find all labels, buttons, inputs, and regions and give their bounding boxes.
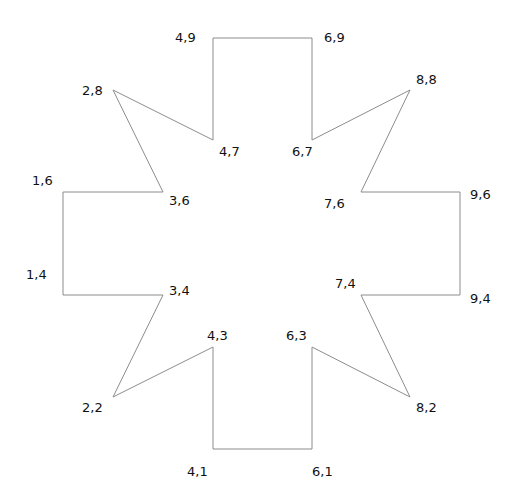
star-polygon-outline	[63, 38, 460, 449]
vertex-label: 4,1	[187, 464, 208, 479]
vertex-label: 4,3	[207, 328, 228, 343]
vertex-label: 3,4	[169, 283, 190, 298]
vertex-label: 4,7	[219, 144, 240, 159]
star-polygon-diagram: 4,96,96,78,87,69,69,47,48,26,36,14,14,32…	[0, 0, 514, 504]
vertex-label: 2,2	[82, 400, 103, 415]
vertex-label: 4,9	[175, 30, 196, 45]
vertex-label: 6,3	[286, 328, 307, 343]
diagram-canvas: 4,96,96,78,87,69,69,47,48,26,36,14,14,32…	[0, 0, 514, 504]
vertex-label: 3,6	[169, 193, 190, 208]
vertex-label: 9,6	[470, 187, 491, 202]
vertex-label: 8,2	[416, 400, 437, 415]
vertex-label: 1,4	[26, 267, 47, 282]
vertex-label: 6,7	[292, 144, 313, 159]
vertex-label: 8,8	[416, 72, 437, 87]
vertex-labels: 4,96,96,78,87,69,69,47,48,26,36,14,14,32…	[26, 30, 491, 479]
vertex-label: 7,6	[324, 196, 345, 211]
vertex-label: 9,4	[470, 291, 491, 306]
vertex-label: 1,6	[32, 173, 53, 188]
vertex-label: 6,9	[324, 30, 345, 45]
vertex-label: 2,8	[82, 83, 103, 98]
vertex-label: 6,1	[312, 464, 333, 479]
vertex-label: 7,4	[335, 276, 356, 291]
